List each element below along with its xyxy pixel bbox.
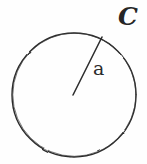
circle-label: C (118, 4, 138, 29)
geometry-figure: C a (0, 0, 147, 164)
radius-label: a (93, 59, 104, 78)
